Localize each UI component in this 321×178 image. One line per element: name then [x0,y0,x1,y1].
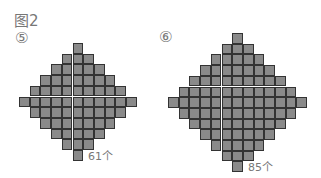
grid-cell [232,33,243,44]
grid-cell [168,97,179,108]
grid-cell [243,65,254,76]
grid-cell [200,76,211,87]
grid-cell [275,87,286,98]
diagram-6-label: ⑥ [159,28,172,46]
grid-cell [40,107,51,118]
grid-cell [264,129,275,140]
grid-cell [105,97,116,108]
grid-cell [222,76,233,87]
grid-cell [62,75,73,86]
grid-cell [254,119,265,130]
grid-cell [254,87,265,98]
grid-cell [83,129,94,140]
grid-cell [73,64,84,75]
grid-cell [189,97,200,108]
grid-cell [254,140,265,151]
grid-cell [222,140,233,151]
grid-cell [275,119,286,130]
grid-cell [200,65,211,76]
grid-cell [30,86,41,97]
grid-cell [264,97,275,108]
grid-cell [83,54,94,65]
grid-cell [51,64,62,75]
grid-cell [189,108,200,119]
grid-cell [243,129,254,140]
grid-cell [264,119,275,130]
grid-cell [94,86,105,97]
grid-cell [222,108,233,119]
grid-cell [243,87,254,98]
grid-cell [179,87,190,98]
grid-cell [40,97,51,108]
grid-cell [83,118,94,129]
grid-cell [232,54,243,65]
grid-cell [83,64,94,75]
grid-cell [51,118,62,129]
grid-cell [73,43,84,54]
grid-cell [62,107,73,118]
grid-cell [286,97,297,108]
grid-cell [232,151,243,162]
grid-cell [232,161,243,172]
figure-title: 图2 [14,9,39,30]
grid-cell [243,76,254,87]
grid-cell [51,75,62,86]
grid-cell [211,54,222,65]
grid-cell [254,129,265,140]
grid-cell [243,54,254,65]
grid-cell [211,87,222,98]
grid-cell [179,97,190,108]
grid-cell [62,118,73,129]
grid-cell [286,108,297,119]
grid-cell [264,108,275,119]
grid-cell [94,107,105,118]
grid-cell [40,118,51,129]
grid-cell [232,87,243,98]
grid-cell [83,107,94,118]
grid-cell [211,129,222,140]
grid-cell [62,129,73,140]
grid-cell [73,129,84,140]
grid-cell [243,119,254,130]
grid-cell [83,75,94,86]
grid-cell [222,151,233,162]
grid-cell [19,97,30,108]
grid-cell [51,107,62,118]
grid-cell [243,140,254,151]
grid-cell [200,108,211,119]
grid-cell [83,86,94,97]
grid-cell [105,107,116,118]
grid-cell [30,107,41,118]
grid-cell [275,108,286,119]
grid-cell [254,76,265,87]
grid-cell [275,97,286,108]
grid-cell [126,97,137,108]
grid-cell [211,76,222,87]
grid-cell [243,97,254,108]
diagram-6-count: 85个 [248,158,273,174]
grid-cell [30,97,41,108]
grid-cell [40,75,51,86]
grid-cell [232,76,243,87]
grid-cell [232,97,243,108]
grid-cell [243,44,254,55]
grid-cell [189,76,200,87]
grid-cell [73,54,84,65]
grid-cell [73,150,84,161]
grid-cell [211,65,222,76]
diagram-5-label: ⑤ [15,29,28,47]
grid-cell [243,108,254,119]
grid-cell [62,54,73,65]
grid-cell [286,87,297,98]
grid-cell [73,97,84,108]
grid-cell [40,86,51,97]
grid-cell [73,86,84,97]
grid-cell [254,97,265,108]
grid-cell [83,97,94,108]
grid-cell [115,86,126,97]
grid-cell [179,108,190,119]
grid-cell [222,65,233,76]
grid-cell [51,97,62,108]
grid-cell [94,75,105,86]
grid-cell [232,119,243,130]
